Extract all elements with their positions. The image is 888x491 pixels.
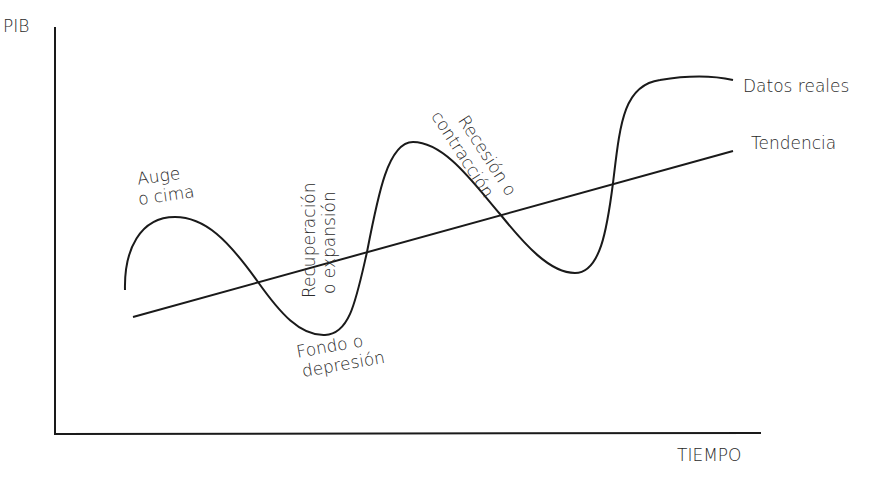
business-cycle-diagram — [0, 0, 888, 491]
recovery-line2: o expansión — [320, 182, 340, 294]
x-axis-label: TIEMPO — [677, 446, 741, 466]
x-axis — [55, 433, 761, 434]
actual-data-curve — [125, 77, 733, 335]
phase-label-peak: Auge o cima — [136, 162, 196, 208]
trend-line — [133, 151, 733, 317]
y-axis-label: PIB — [3, 17, 29, 37]
phase-label-recovery: Recuperación o expansión — [300, 182, 339, 298]
recovery-line1: Recuperación — [300, 182, 320, 298]
actual-data-label: Datos reales — [743, 77, 849, 97]
trend-label: Tendencia — [751, 134, 836, 154]
